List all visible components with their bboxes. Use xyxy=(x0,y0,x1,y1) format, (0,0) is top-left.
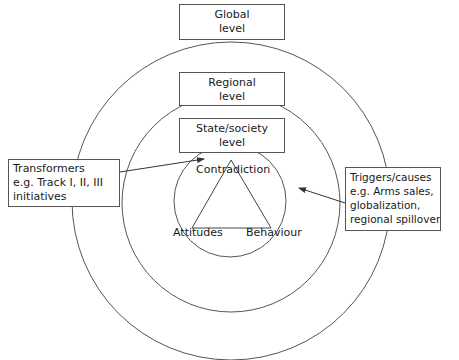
transformers-example: e.g. Track I, II, III xyxy=(13,176,115,190)
transformers-example-cont: initiatives xyxy=(13,190,115,204)
triggers-title: Triggers/causes xyxy=(350,170,436,184)
regional-level-sublabel: level xyxy=(180,90,284,104)
global-level-box: Global level xyxy=(179,4,285,40)
regional-level-box: Regional level xyxy=(179,72,285,106)
triggers-example-end: regional spillover xyxy=(350,212,436,226)
contradiction-label: Contradiction xyxy=(196,163,270,176)
triggers-example-cont: globalization, xyxy=(350,198,436,212)
behaviour-label: Behaviour xyxy=(246,226,302,239)
global-level-label: Global xyxy=(180,8,284,22)
triggers-example: e.g. Arms sales, xyxy=(350,184,436,198)
global-level-sublabel: level xyxy=(180,22,284,36)
triggers-arrow xyxy=(299,188,345,203)
state-level-label: State/society xyxy=(180,122,284,136)
transformers-box: Transformers e.g. Track I, II, III initi… xyxy=(8,159,120,207)
attitudes-label: Attitudes xyxy=(173,226,223,239)
transformers-title: Transformers xyxy=(13,162,115,176)
transformers-arrow xyxy=(120,159,204,172)
regional-level-label: Regional xyxy=(180,76,284,90)
state-level-sublabel: level xyxy=(180,136,284,150)
triggers-box: Triggers/causes e.g. Arms sales, globali… xyxy=(345,167,441,231)
state-level-box: State/society level xyxy=(179,118,285,153)
